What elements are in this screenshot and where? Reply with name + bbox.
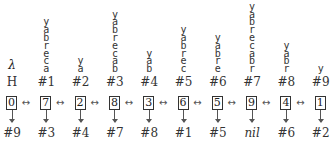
string-char: b <box>112 65 118 73</box>
pointer-target: #1 <box>167 126 201 140</box>
node-label: #9 <box>304 75 336 89</box>
lambda-symbol: λ <box>8 59 16 71</box>
suffix-string: y <box>304 65 336 73</box>
node-label: #4 <box>132 75 166 89</box>
pointer-target: #4 <box>64 126 98 140</box>
pointer-target: #6 <box>269 126 303 140</box>
cell-box: 4 <box>280 96 291 110</box>
column-4: yab#43#8 <box>132 0 166 151</box>
node-label: #6 <box>201 75 235 89</box>
cell-box: 5 <box>212 96 223 110</box>
pointer-target: #7 <box>98 126 132 140</box>
down-arrow-icon <box>249 119 255 123</box>
column-2: ya#22#4 <box>64 0 98 151</box>
suffix-string: yabrecab <box>98 11 132 73</box>
node-label: #2 <box>64 75 98 89</box>
cell-box: 7 <box>40 96 51 110</box>
suffix-string: yab <box>132 50 166 73</box>
string-char: a <box>78 65 84 73</box>
pointer-target: #3 <box>29 126 63 140</box>
cell-box: 9 <box>246 96 257 110</box>
node-label: #1 <box>29 75 63 89</box>
cell-box: 0 <box>6 96 17 110</box>
down-arrow-icon <box>181 119 187 123</box>
node-label: #5 <box>167 75 201 89</box>
column-1: yabreca#17#3 <box>29 0 63 151</box>
column-6: yabre#65#5 <box>201 0 235 151</box>
down-arrow-icon <box>146 119 152 123</box>
pointer-target: nil <box>235 126 269 140</box>
suffix-string: yabreca <box>29 18 63 73</box>
column-0: λH0#9 <box>0 0 29 151</box>
column-3: yabrecab#38#7 <box>98 0 132 151</box>
suffix-string: ya <box>64 57 98 73</box>
cell-box: 8 <box>109 96 120 110</box>
cell-box: 6 <box>178 96 189 110</box>
down-arrow-icon <box>43 119 49 123</box>
node-label: #3 <box>98 75 132 89</box>
down-arrow-icon <box>9 119 15 123</box>
node-label: #7 <box>235 75 269 89</box>
string-char: y <box>318 65 324 73</box>
down-arrow-icon <box>112 119 118 123</box>
string-char: b <box>146 65 152 73</box>
down-arrow-icon <box>78 119 84 123</box>
down-arrow-icon <box>283 119 289 123</box>
cell-box: 1 <box>315 96 326 110</box>
string-char: a <box>43 65 49 73</box>
column-9: y#91#2 <box>304 0 336 151</box>
suffix-string: yabrecabr <box>235 3 269 73</box>
string-char: r <box>283 65 289 73</box>
suffix-string: λ <box>0 59 29 73</box>
down-arrow-icon <box>318 119 324 123</box>
pointer-target: #2 <box>304 126 336 140</box>
string-char: e <box>215 65 221 73</box>
suffix-string: yabr <box>269 42 303 73</box>
pointer-target: #9 <box>0 126 29 140</box>
string-char: r <box>249 65 255 73</box>
cell-box: 2 <box>75 96 86 110</box>
down-arrow-icon <box>215 119 221 123</box>
node-label: H <box>0 75 29 89</box>
cell-box: 3 <box>143 96 154 110</box>
pointer-target: #8 <box>132 126 166 140</box>
string-char: c <box>180 65 186 73</box>
node-label: #8 <box>269 75 303 89</box>
column-7: yabrecabr#79nil <box>235 0 269 151</box>
suffix-string: yabre <box>201 34 235 73</box>
column-8: yabr#84#6 <box>269 0 303 151</box>
pointer-target: #5 <box>201 126 235 140</box>
column-5: yabrec#56#1 <box>167 0 201 151</box>
suffix-string: yabrec <box>167 26 201 73</box>
